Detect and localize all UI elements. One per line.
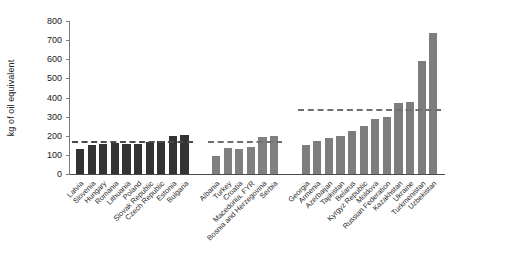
- bar: [429, 33, 437, 174]
- reference-line: [298, 109, 442, 111]
- bar: [134, 144, 142, 174]
- bar: [157, 141, 165, 174]
- bar: [247, 147, 255, 174]
- bar: [348, 131, 356, 174]
- bar: [76, 149, 84, 174]
- bar: [302, 145, 310, 174]
- bar: [394, 103, 402, 174]
- bar: [371, 119, 379, 174]
- bar: [360, 126, 368, 174]
- chart-container: kg of oil equivalent 0100200300400500600…: [0, 0, 531, 260]
- bar: [212, 156, 220, 174]
- bar: [383, 117, 391, 174]
- bar: [313, 141, 321, 174]
- bar: [235, 149, 243, 174]
- bar: [336, 136, 344, 174]
- bar: [224, 148, 232, 174]
- bar: [88, 145, 96, 174]
- reference-line: [72, 141, 193, 143]
- bar: [325, 138, 333, 174]
- bar: [146, 142, 154, 174]
- plot-area: [0, 0, 531, 260]
- bar: [111, 143, 119, 174]
- bar: [406, 102, 414, 174]
- bar: [122, 144, 130, 174]
- bar: [99, 144, 107, 174]
- reference-line: [208, 141, 282, 143]
- bar: [418, 61, 426, 174]
